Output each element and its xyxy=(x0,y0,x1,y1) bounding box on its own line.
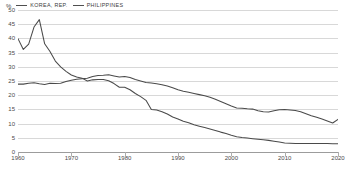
legend-label-korea: KOREA, REP. xyxy=(30,3,67,8)
x-axis-tick-label: 2010 xyxy=(278,155,291,161)
series-line-philippines xyxy=(18,75,338,123)
y-axis-tick-label: 5 xyxy=(12,135,15,141)
x-axis-labels: 1960197019801990200020102020 xyxy=(18,155,338,167)
legend-entry-philippines: PHILIPPINES xyxy=(73,3,124,8)
y-axis-tick-label: 30 xyxy=(8,64,15,70)
y-axis-tick-label: 10 xyxy=(8,121,15,127)
legend-label-philippines: PHILIPPINES xyxy=(87,3,124,8)
x-axis-tick-label: 1960 xyxy=(11,155,24,161)
line-swatch-icon xyxy=(16,5,27,6)
y-axis-tick-label: 15 xyxy=(8,106,15,112)
legend-entry-korea: KOREA, REP. xyxy=(16,3,67,8)
y-axis-tick-label: 25 xyxy=(8,78,15,84)
y-axis-tick-label: 40 xyxy=(8,35,15,41)
chart-legend: % KOREA, REP. PHILIPPINES xyxy=(6,1,123,10)
y-axis-tick-label: 20 xyxy=(8,92,15,98)
x-axis-tick-label: 2020 xyxy=(331,155,344,161)
y-axis-tick-label: 45 xyxy=(8,21,15,27)
x-axis-tick-label: 1990 xyxy=(171,155,184,161)
x-axis-tick-label: 2000 xyxy=(225,155,238,161)
x-axis-tick-label: 1970 xyxy=(65,155,78,161)
y-axis-labels: 50454035302520151050 xyxy=(0,10,15,152)
x-axis-tick-label: 1980 xyxy=(118,155,131,161)
plot-area xyxy=(18,10,338,152)
agriculture-share-line-chart: % KOREA, REP. PHILIPPINES 50454035302520… xyxy=(0,0,349,179)
y-axis-tick-label: 50 xyxy=(8,7,15,13)
y-axis-tick-label: 35 xyxy=(8,50,15,56)
series-lines xyxy=(18,10,338,152)
line-swatch-icon xyxy=(73,5,84,6)
